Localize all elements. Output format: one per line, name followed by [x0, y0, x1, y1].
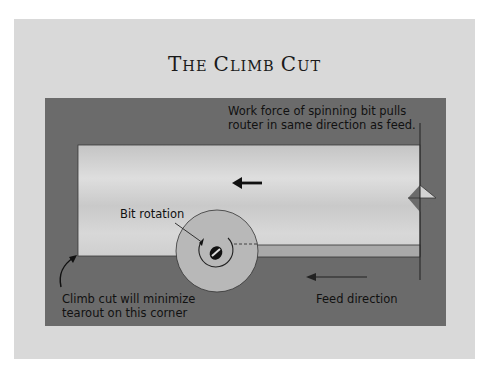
router-bit-icon	[176, 210, 258, 292]
climb-cut-line-1: Climb cut will minimize	[62, 292, 195, 306]
feed-arrow-icon	[306, 273, 367, 281]
work-force-line-1: Work force of spinning bit pulls	[228, 104, 416, 118]
workpiece-board	[78, 145, 436, 257]
bit-rotation-label: Bit rotation	[120, 207, 184, 221]
climb-cut-label: Climb cut will minimize tearout on this …	[62, 292, 195, 320]
corner-arrow-icon	[60, 255, 77, 287]
feed-direction-label: Feed direction	[316, 292, 398, 306]
work-force-label: Work force of spinning bit pulls router …	[228, 104, 416, 132]
work-force-line-2: router in same direction as feed.	[228, 118, 416, 132]
climb-cut-line-2: tearout on this corner	[62, 306, 195, 320]
